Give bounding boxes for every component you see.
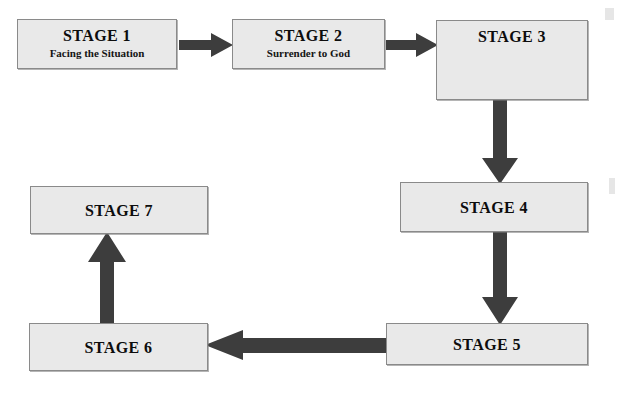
stage-box-stage7[interactable]: STAGE 7 (30, 186, 208, 234)
stage-box-stage4[interactable]: STAGE 4 (400, 182, 588, 232)
stage-title: STAGE 2 (275, 26, 343, 45)
stage-title: STAGE 6 (85, 338, 153, 357)
stage-title: STAGE 3 (478, 27, 546, 46)
flowchart-canvas: STAGE 1 Facing the Situation STAGE 2 Sur… (0, 0, 625, 395)
stage-box-stage2[interactable]: STAGE 2 Surrender to God (232, 19, 385, 69)
scan-artifact-top-right (605, 8, 614, 20)
connector-stage2-to-stage3 (386, 33, 438, 57)
stage-box-stage3[interactable]: STAGE 3 (436, 20, 588, 100)
scan-artifact-mid-right (609, 178, 615, 194)
stage-title: STAGE 7 (85, 201, 153, 220)
connector-stage5-to-stage6 (205, 330, 389, 360)
stage-title: STAGE 1 (63, 26, 131, 45)
stage-title: STAGE 4 (460, 198, 528, 217)
connector-stage1-to-stage2 (179, 33, 233, 57)
stage-box-stage1[interactable]: STAGE 1 Facing the Situation (17, 19, 177, 69)
stage-subtitle: Facing the Situation (50, 46, 145, 60)
connector-stage6-to-stage7 (88, 232, 126, 326)
stage-subtitle: Surrender to God (267, 46, 350, 60)
connector-stage4-to-stage5 (482, 231, 518, 325)
stage-title: STAGE 5 (453, 335, 521, 354)
stage-box-stage6[interactable]: STAGE 6 (29, 323, 208, 371)
stage-box-stage5[interactable]: STAGE 5 (386, 323, 588, 365)
connector-stage3-to-stage4 (482, 98, 518, 184)
